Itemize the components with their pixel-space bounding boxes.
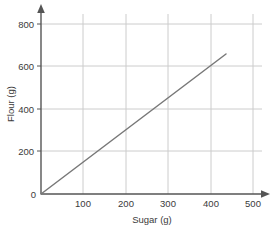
x-tick-label-400: 400: [203, 198, 219, 209]
x-tick-label-300: 300: [160, 198, 176, 209]
y-tick-label-200: 200: [18, 146, 34, 157]
y-tick-label-0: 0: [31, 189, 36, 200]
y-axis-title: Flour (g): [5, 86, 16, 122]
y-tick-label-600: 600: [18, 61, 34, 72]
x-tick-label-200: 200: [118, 198, 134, 209]
chart-container: 800 600 400 200 0 100 200 300 400 500 Su…: [0, 0, 277, 229]
y-tick-label-800: 800: [18, 19, 34, 30]
x-axis-title: Sugar (g): [132, 214, 172, 225]
x-tick-label-500: 500: [245, 198, 261, 209]
line-chart: 800 600 400 200 0 100 200 300 400 500 Su…: [0, 0, 277, 229]
x-tick-label-100: 100: [75, 198, 91, 209]
y-tick-label-400: 400: [18, 104, 34, 115]
